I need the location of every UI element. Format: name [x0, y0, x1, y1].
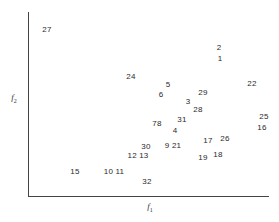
point-label: 25 — [259, 113, 268, 121]
point-label: 18 — [213, 151, 222, 159]
point-label: 32 — [142, 178, 151, 186]
point-label: 15 — [70, 168, 79, 176]
point-label: 3 — [186, 98, 191, 106]
point-label: 19 — [198, 154, 207, 162]
y-axis-label: f2 — [11, 92, 17, 104]
point-label: 5 — [166, 81, 171, 89]
point-label: 17 — [203, 137, 212, 145]
x-axis-line — [28, 196, 269, 197]
point-label: 22 — [247, 80, 256, 88]
point-label: 27 — [42, 26, 51, 34]
point-label: 10 11 — [104, 168, 124, 176]
point-label: 2 — [217, 44, 222, 52]
point-label: 4 — [173, 127, 178, 135]
point-label: 29 — [198, 89, 207, 97]
point-label: 28 — [193, 106, 202, 114]
point-label: 30 — [141, 143, 150, 151]
point-label: 31 — [177, 116, 186, 124]
point-label: 9 21 — [165, 142, 181, 150]
point-label: 26 — [220, 135, 229, 143]
x-axis-label: f1 — [147, 201, 153, 213]
point-label: 1 — [218, 55, 223, 63]
point-label: 24 — [126, 73, 135, 81]
point-label: 16 — [257, 124, 266, 132]
point-label: 78 — [152, 120, 161, 128]
y-axis-line — [28, 12, 29, 197]
point-label: 12 13 — [127, 152, 148, 160]
scatter-plot: f2 f1 27212422529632825317816426179 2130… — [0, 0, 279, 222]
point-label: 6 — [159, 91, 164, 99]
